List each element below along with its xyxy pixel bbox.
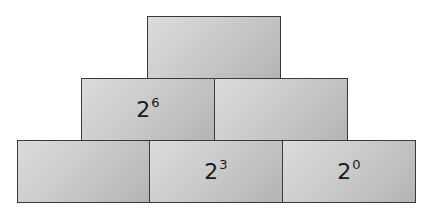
pyramid-block-bottom-right: 20	[282, 140, 416, 203]
block-label	[214, 37, 215, 59]
block-label	[281, 99, 282, 121]
block-label: 23	[204, 161, 227, 183]
pyramid-block-bottom-middle: 23	[149, 140, 283, 203]
pyramid-block-middle-left: 26	[81, 78, 215, 141]
pyramid-block-middle-right	[214, 78, 348, 141]
block-label: 26	[136, 99, 159, 121]
block-label	[83, 161, 84, 183]
pyramid-block-top	[147, 16, 281, 79]
pyramid-block-bottom-left	[17, 140, 150, 203]
block-label: 20	[337, 161, 360, 183]
